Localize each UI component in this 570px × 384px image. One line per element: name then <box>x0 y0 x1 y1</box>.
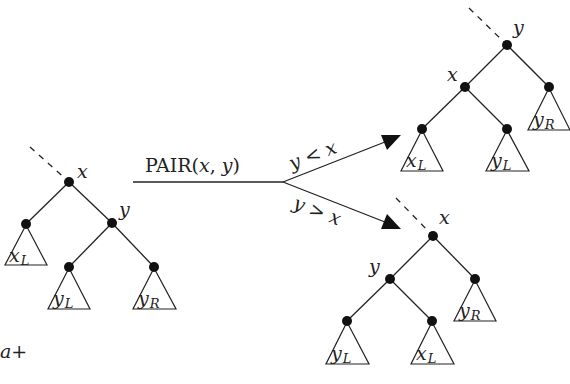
edge <box>390 236 433 279</box>
node-yL <box>342 316 352 326</box>
node-yL <box>502 124 512 134</box>
root-label: y <box>512 16 524 38</box>
node-x <box>460 82 470 92</box>
parent-link-dashed <box>396 198 433 236</box>
edge <box>422 87 465 129</box>
condition-less: y<x <box>285 135 340 174</box>
output-tree-less: y x xL yL yR <box>401 8 570 173</box>
edge <box>112 223 154 267</box>
edge <box>26 182 69 224</box>
edge <box>347 279 390 321</box>
edge <box>69 223 112 267</box>
edge <box>465 45 507 87</box>
operation-label: PAIR(x, y) <box>145 154 240 176</box>
child-label: y <box>118 198 130 220</box>
arrowhead-icon <box>381 214 401 229</box>
node-yR <box>470 274 480 284</box>
footer-fragment: a+ <box>0 340 27 362</box>
parent-link-dashed <box>469 8 507 45</box>
node-y <box>385 274 395 284</box>
arrowhead-icon <box>381 135 401 150</box>
node-y <box>107 218 117 228</box>
pairing-diagram: x y xL yL yR PAIR(x, y) y<x y>x y x xL <box>0 0 570 384</box>
node-xL <box>427 316 437 326</box>
node-yR <box>544 82 554 92</box>
parent-link-dashed <box>30 147 69 182</box>
child-label: x <box>447 63 458 85</box>
edge <box>69 182 112 223</box>
branch-arrows: PAIR(x, y) y<x y>x <box>133 135 401 230</box>
child-label: y <box>368 255 380 277</box>
node-yR <box>149 262 159 272</box>
root-label: x <box>77 160 88 182</box>
node-x <box>428 231 438 241</box>
node-y <box>502 40 512 50</box>
edge <box>390 279 432 321</box>
condition-greater: y>x <box>290 191 345 230</box>
edge <box>433 236 475 279</box>
node-yL <box>64 262 74 272</box>
node-x <box>64 177 74 187</box>
root-label: x <box>439 206 450 228</box>
node-xL <box>417 124 427 134</box>
output-tree-greater: x y yL xL yR <box>326 198 496 366</box>
edge <box>465 87 507 129</box>
node-xL <box>21 219 31 229</box>
edge <box>507 45 549 87</box>
